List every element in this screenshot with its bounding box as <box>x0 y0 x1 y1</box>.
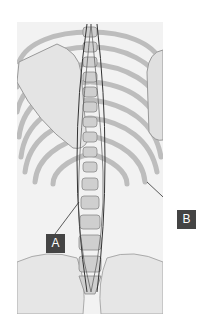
anatomy-drawing <box>17 22 163 314</box>
spine-illustration <box>17 22 163 314</box>
label-b: B <box>177 210 196 229</box>
label-a: A <box>46 234 65 253</box>
